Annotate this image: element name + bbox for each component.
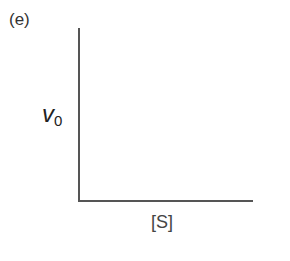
x-axis (78, 200, 253, 202)
y-axis-label-subscript: 0 (54, 112, 62, 129)
x-axis-label: [S] (151, 212, 173, 233)
y-axis-label: v0 (42, 100, 62, 129)
panel-label: (e) (9, 10, 30, 30)
y-axis (78, 28, 80, 202)
y-axis-label-main: v (42, 100, 54, 127)
